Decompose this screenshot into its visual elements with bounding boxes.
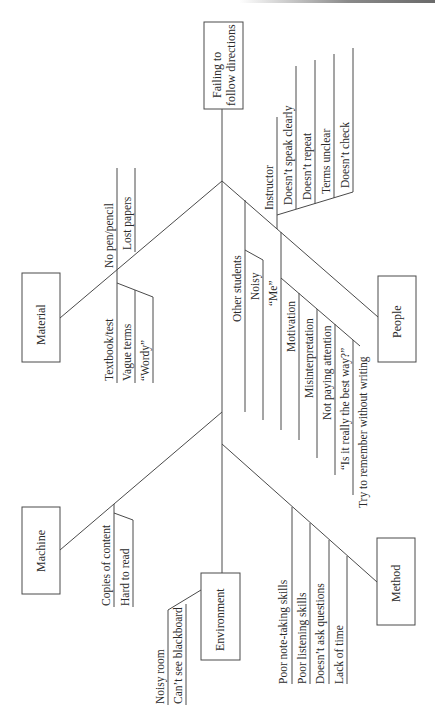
cause-label: Can’t see blackboard xyxy=(172,607,184,704)
cause-label: Doesn’t repeat xyxy=(301,133,313,200)
motivation-label: Motivation xyxy=(285,301,297,352)
cause-label: Doesn’t speak clearly xyxy=(282,106,294,205)
effect-label-line2: follow directions xyxy=(225,24,237,106)
people-category-label: People xyxy=(391,305,403,338)
cause-label: Lost papers xyxy=(121,197,133,250)
method-category-label: Method xyxy=(390,565,402,602)
cause-label: Doesn’t ask questions xyxy=(314,583,326,684)
cause-label: Misinterpretation xyxy=(303,318,315,398)
material-category-label: Material xyxy=(35,304,47,345)
effect-label-line1: Failing to xyxy=(211,52,223,98)
other-students-label: Other students xyxy=(231,255,243,322)
machine-category-label: Machine xyxy=(35,530,47,572)
cause-label: Textbook/test xyxy=(103,319,115,381)
cause-label: “Wordy” xyxy=(139,340,151,381)
cause-label: “Me” xyxy=(267,280,279,306)
method-bone xyxy=(222,444,377,582)
cause-label: “Is it really the best way?” xyxy=(339,348,351,470)
cause-label: Lack of time xyxy=(333,625,345,684)
cause-label: Terms unclear xyxy=(320,129,332,194)
instructor-label: Instructor xyxy=(263,165,275,210)
cause-label: Noisy room xyxy=(154,649,166,704)
cause-label: Not paying attention xyxy=(321,325,333,420)
cause-label: Poor note-taking skills xyxy=(277,580,289,684)
environment-category-label: Environment xyxy=(214,588,226,651)
cause-label: Poor listening skills xyxy=(296,593,308,684)
machine-bone xyxy=(60,412,222,550)
cause-label: Noisy xyxy=(249,273,261,300)
cause-label: Try to remember without writing xyxy=(357,356,369,508)
cause-label: Copies of content xyxy=(100,525,112,606)
cause-label: Vague terms xyxy=(121,324,133,381)
cause-label: Doesn’t check xyxy=(339,122,351,188)
material-bone xyxy=(60,181,222,318)
cause-label: Hard to read xyxy=(119,549,131,606)
cause-label: No pen/pencil xyxy=(103,203,115,268)
